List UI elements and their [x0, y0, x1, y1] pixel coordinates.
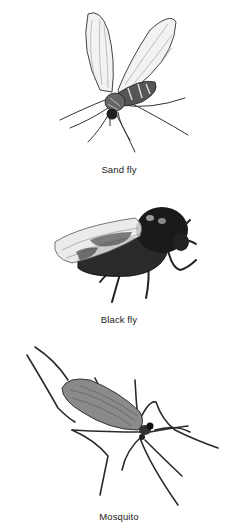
figure-black-fly: Black fly — [0, 180, 238, 340]
caption-sand-fly: Sand fly — [0, 164, 238, 175]
figure-sand-fly: Sand fly — [0, 0, 238, 180]
sand-fly-icon — [0, 0, 238, 165]
black-fly-icon — [0, 180, 238, 320]
caption-mosquito: Mosquito — [0, 511, 238, 522]
caption-black-fly: Black fly — [0, 314, 238, 325]
figure-mosquito: Mosquito — [0, 340, 238, 530]
mosquito-icon — [0, 340, 238, 512]
